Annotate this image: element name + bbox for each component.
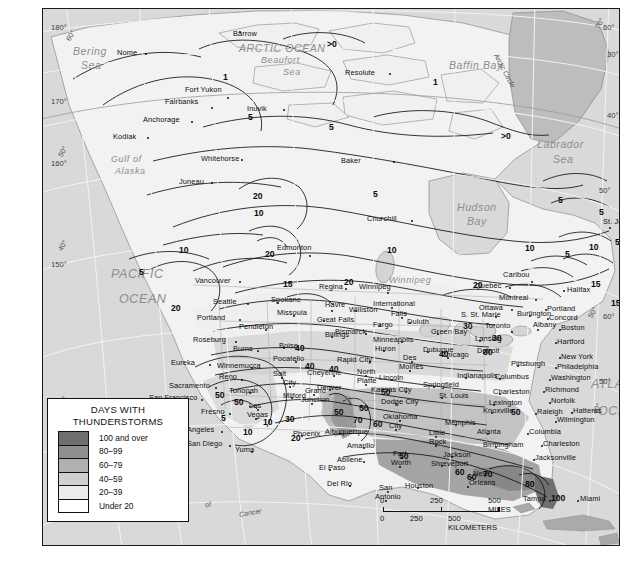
scale-km-0: 0 [380, 514, 384, 523]
legend-row: Under 20 [58, 499, 188, 513]
legend-swatch [58, 431, 89, 445]
legend-title-line-1: DAYS WITH [48, 404, 188, 416]
legend-swatch [58, 458, 89, 472]
legend-swatch [58, 472, 89, 486]
map-legend: DAYS WITH THUNDERSTORMS 100 and over80–9… [47, 398, 189, 522]
legend-title-line-2: THUNDERSTORMS [48, 416, 188, 428]
scale-miles-0: 0 [380, 496, 384, 505]
legend-row: 80–99 [58, 445, 188, 459]
legend-label: 40–59 [99, 474, 122, 484]
scale-tick-end [499, 507, 500, 512]
legend-label: Under 20 [99, 501, 133, 511]
legend-row: 40–59 [58, 472, 188, 486]
scale-km-250: 250 [410, 514, 423, 523]
legend-label: 100 and over [99, 433, 148, 443]
scale-km-500: 500 KILOMETERS [448, 514, 497, 532]
legend-label: 80–99 [99, 446, 122, 456]
scale-tick-0 [383, 507, 384, 512]
legend-swatch [58, 485, 89, 499]
legend-label: 60–79 [99, 460, 122, 470]
scale-tick-mid [441, 507, 442, 512]
legend-swatch [58, 499, 89, 513]
legend-label: 20–39 [99, 487, 122, 497]
scale-miles-250: 250 [430, 496, 443, 505]
graticule-label: 70° [608, 545, 619, 546]
legend-row: 60–79 [58, 458, 188, 472]
legend-swatch [58, 445, 89, 459]
legend-title: DAYS WITH THUNDERSTORMS [48, 399, 188, 427]
legend-row: 20–39 [58, 485, 188, 499]
thunderstorm-map-page: BeringSeaARCTIC OCEANBeaufortSeaBaffin B… [0, 0, 634, 564]
legend-row: 100 and over [58, 431, 188, 445]
legend-rows: 100 and over80–9960–7940–5920–39Under 20 [58, 431, 188, 513]
